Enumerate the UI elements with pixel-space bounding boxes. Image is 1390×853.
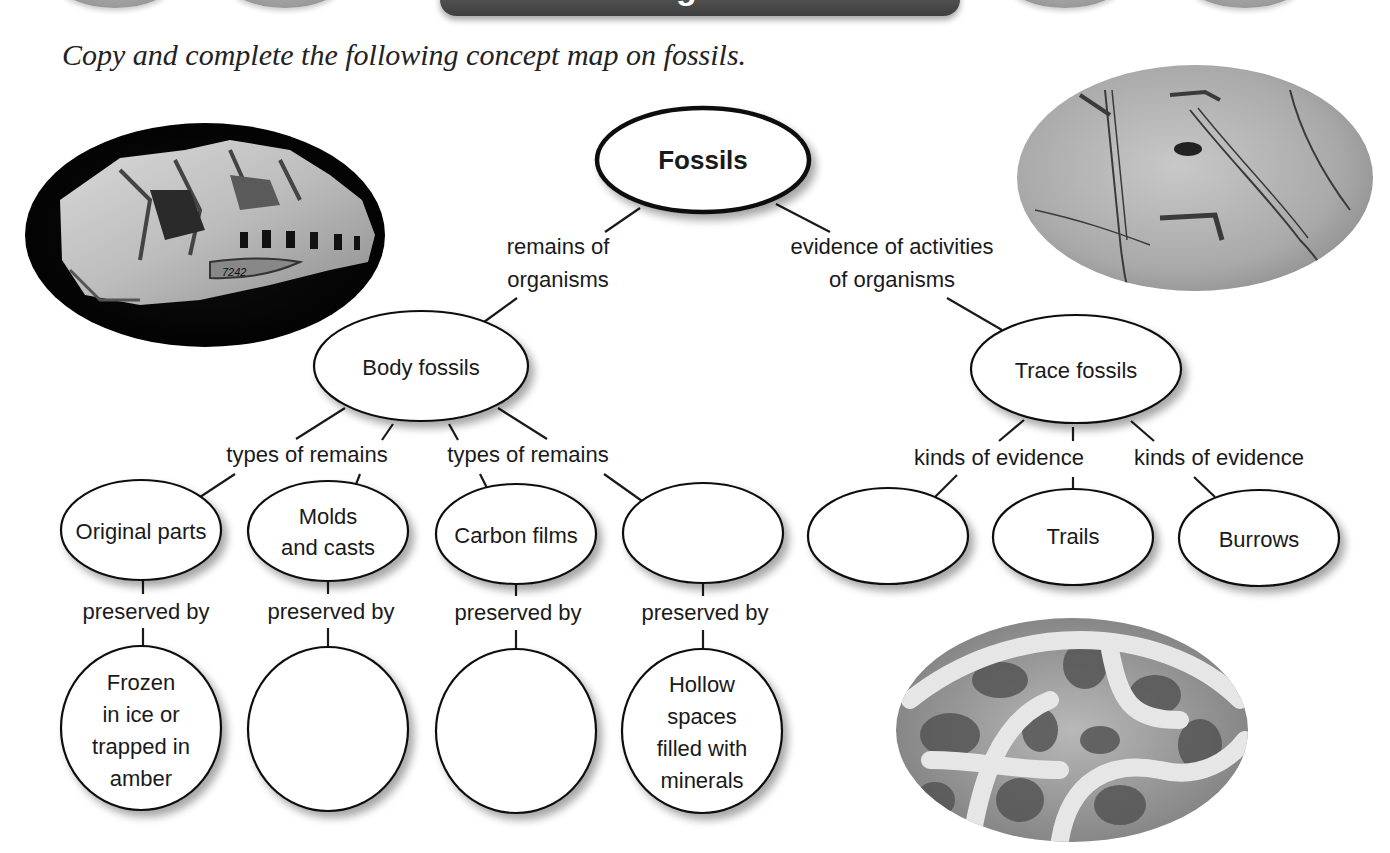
node-label-line-2: in ice or	[102, 702, 179, 727]
node-label-line-3: trapped in	[92, 734, 190, 759]
node-label: Burrows	[1219, 527, 1300, 552]
node-original-parts: Original parts	[61, 480, 221, 580]
link-preserved-by-1: preserved by	[82, 599, 209, 624]
node-label-line-4: amber	[110, 766, 172, 791]
link-line-2: of organisms	[829, 267, 955, 292]
node-molds-and-casts: Molds and casts	[248, 481, 408, 581]
node-body-fossils-label: Body fossils	[362, 355, 479, 380]
node-burrows: Burrows	[1179, 490, 1339, 586]
link-line-1: evidence of activities	[791, 234, 994, 259]
trackway-fossil-photo	[1017, 65, 1373, 300]
link-evidence-of-activities: evidence of activities of organisms	[791, 234, 994, 292]
link-types-of-remains-right: types of remains	[447, 442, 608, 467]
node-body-fossils: Body fossils	[314, 311, 528, 421]
burrow-fossil-photo	[896, 618, 1248, 850]
node-fossils-label: Fossils	[658, 145, 748, 175]
link-kinds-of-evidence-right: kinds of evidence	[1134, 445, 1304, 470]
node-blank-evidence	[808, 488, 968, 584]
node-label-line-2: and casts	[281, 535, 375, 560]
link-kinds-of-evidence-left: kinds of evidence	[914, 445, 1084, 470]
node-carbon-films: Carbon films	[436, 484, 596, 584]
node-trace-fossils-label: Trace fossils	[1015, 358, 1138, 383]
node-label: Original parts	[76, 519, 207, 544]
node-label-line-3: filled with	[657, 736, 747, 761]
node-trails: Trails	[993, 489, 1153, 585]
link-preserved-by-3: preserved by	[454, 600, 581, 625]
node-hollow-spaces: Hollow spaces filled with minerals	[622, 649, 782, 813]
node-label: Carbon films	[454, 523, 577, 548]
link-types-of-remains-left: types of remains	[226, 442, 387, 467]
node-label-line-1: Frozen	[107, 670, 175, 695]
node-blank-type	[623, 483, 783, 583]
node-fossils: Fossils	[597, 108, 809, 212]
node-blank-preservation-2	[436, 649, 596, 813]
node-label-line-2: spaces	[667, 704, 737, 729]
node-label-line-1: Molds	[299, 504, 358, 529]
link-preserved-by-4: preserved by	[641, 600, 768, 625]
node-label-line-4: minerals	[660, 768, 743, 793]
link-line-2: organisms	[507, 267, 608, 292]
link-remains-of-organisms: remains of organisms	[507, 234, 611, 292]
link-preserved-by-2: preserved by	[267, 599, 394, 624]
concept-map: 7242	[0, 0, 1390, 853]
node-label-line-1: Hollow	[669, 672, 735, 697]
specimen-number: 7242	[222, 266, 246, 278]
node-frozen-in-ice: Frozen in ice or trapped in amber	[61, 646, 221, 810]
skull-fossil-photo: 7242	[25, 123, 385, 347]
node-trace-fossils: Trace fossils	[971, 315, 1181, 423]
link-line-1: remains of	[507, 234, 611, 259]
node-label: Trails	[1047, 524, 1100, 549]
node-blank-preservation-1	[248, 647, 408, 811]
